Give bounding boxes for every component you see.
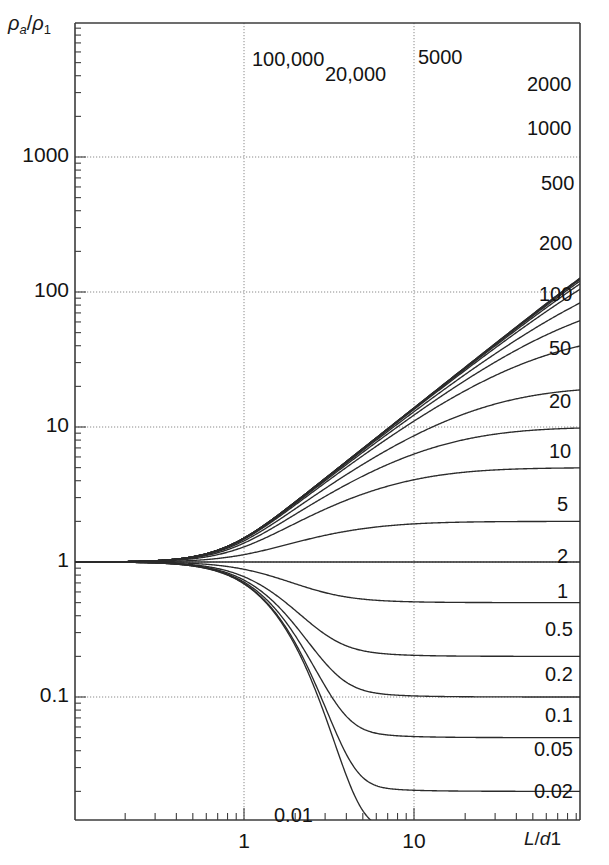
curve-label-0-05: 0.05 [534, 738, 573, 761]
curve-label-20: 20 [549, 390, 571, 413]
plot-frame [75, 23, 580, 820]
y-tick-label: 1 [57, 548, 69, 572]
curve-label-100: 100 [539, 283, 572, 306]
y-axis-rho-1: ρ [32, 12, 43, 34]
curve-label-200: 200 [539, 232, 572, 255]
curve-label-2: 2 [557, 545, 568, 568]
resistivity-master-curve-figure: ρa/ρ1 L/d1 10001001010.1 110 100,00020,0… [0, 0, 609, 865]
y-axis-sub-1: 1 [44, 22, 51, 37]
x-axis-L: L [524, 828, 535, 849]
x-tick-label: 10 [384, 829, 444, 853]
curve-label-2000: 2000 [527, 73, 572, 96]
curve-label-20-000: 20,000 [325, 63, 386, 86]
curve-label-0-1: 0.1 [545, 704, 573, 727]
y-tick-label: 100 [34, 278, 69, 302]
y-tick-label: 1000 [22, 143, 69, 167]
curve-label-1000: 1000 [527, 117, 572, 140]
y-tick-label: 10 [46, 413, 69, 437]
x-axis-one: 1 [550, 828, 561, 849]
x-tick-label: 1 [214, 829, 274, 853]
curve-lines [75, 278, 580, 823]
y-tick-label: 0.1 [40, 683, 69, 707]
curve-label-5: 5 [557, 493, 568, 516]
axis-ticks [75, 28, 576, 820]
y-axis-title: ρa/ρ1 [8, 12, 51, 37]
x-axis-title: L/d1 [524, 828, 561, 850]
gridlines [75, 23, 580, 820]
curve-label-100-000: 100,000 [252, 48, 324, 71]
curve-label-0-2: 0.2 [545, 663, 573, 686]
x-axis-d: d [540, 828, 551, 849]
curve-label-0-02: 0.02 [534, 780, 573, 803]
y-axis-rho-a: ρ [8, 12, 19, 34]
curve-label-50: 50 [549, 337, 571, 360]
curve-label-10: 10 [549, 440, 571, 463]
curve-label-0-01: 0.01 [274, 804, 313, 827]
y-axis-sub-a: a [19, 22, 26, 37]
curve-label-500: 500 [541, 172, 574, 195]
curve-label-1: 1 [557, 580, 568, 603]
curve-label-5000: 5000 [418, 46, 463, 69]
curve-label-0-5: 0.5 [545, 618, 573, 641]
chart-plot-area [0, 0, 609, 865]
